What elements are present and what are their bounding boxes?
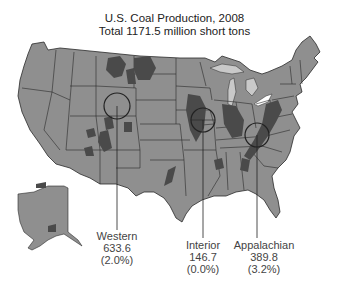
appalachian-name: Appalachian — [224, 239, 304, 251]
appalachian-value: 389.8 — [224, 251, 304, 263]
coal-raton — [124, 122, 132, 132]
alaska-shape — [18, 186, 82, 250]
coal-alaska-north — [36, 182, 46, 188]
western-name: Western — [77, 230, 157, 242]
western-value: 633.6 — [77, 242, 157, 254]
appalachian-change: (3.2%) — [224, 263, 304, 275]
western-label: Western 633.6 (2.0%) — [77, 230, 157, 266]
appalachian-label: Appalachian 389.8 (3.2%) — [224, 239, 304, 275]
western-change: (2.0%) — [77, 254, 157, 266]
